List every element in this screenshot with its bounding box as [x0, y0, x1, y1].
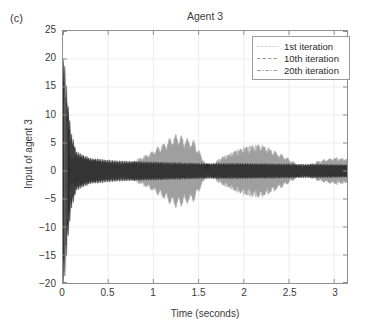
x-tick-label: 2: [241, 287, 247, 299]
legend-item[interactable]: 20th iteration: [256, 64, 345, 76]
legend-label: 20th iteration: [284, 65, 339, 76]
legend-line-sample-icon: [256, 66, 280, 75]
legend-item[interactable]: 1st iteration: [256, 40, 345, 52]
y-tick-label: 10: [14, 109, 56, 121]
x-tick-label: 1.5: [192, 287, 206, 299]
x-tick-label: 2.5: [283, 287, 297, 299]
legend-item[interactable]: 10th iteration: [256, 52, 345, 64]
x-tick-label: 0.5: [101, 287, 115, 299]
y-tick-label: −20: [14, 278, 56, 290]
y-tick-label: −15: [14, 250, 56, 262]
panel-label: (c): [10, 12, 23, 24]
y-tick-label: 5: [14, 137, 56, 149]
legend-line-sample-icon: [256, 42, 280, 51]
legend[interactable]: 1st iteration10th iteration20th iteratio…: [252, 36, 350, 80]
x-tick-label: 1: [150, 287, 156, 299]
y-tick-label: 25: [14, 24, 56, 36]
chart-title: Agent 3: [62, 10, 348, 22]
y-tick-label: −5: [14, 193, 56, 205]
legend-label: 1st iteration: [284, 41, 333, 52]
x-axis-label: Time (seconds): [62, 308, 348, 320]
y-tick-label: 0: [14, 165, 56, 177]
y-tick-label: 20: [14, 52, 56, 64]
y-tick-label: 15: [14, 80, 56, 92]
legend-label: 10th iteration: [284, 53, 339, 64]
figure-panel: (c) Agent 3 00.511.522.53 −20−15−10−5051…: [0, 0, 368, 331]
y-tick-label: −10: [14, 222, 56, 234]
x-tick-label: 0: [59, 287, 65, 299]
legend-line-sample-icon: [256, 54, 280, 63]
y-axis-label: Input of agent 3: [23, 84, 35, 224]
x-tick-label: 3: [332, 287, 338, 299]
